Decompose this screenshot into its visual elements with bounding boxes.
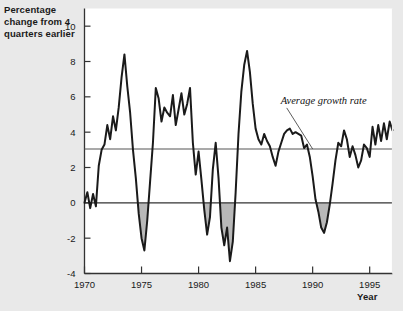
y-tick-label: -2: [67, 233, 75, 244]
x-tick-label: 1985: [245, 279, 266, 290]
x-tick-label: 1970: [74, 279, 95, 290]
y-tick-label: 6: [70, 91, 75, 102]
chart-figure: Percentage change from 4 quarters earlie…: [0, 0, 403, 311]
x-tick-label: 1995: [359, 279, 380, 290]
y-tick-label: -4: [67, 268, 75, 279]
y-tick-label: 2: [70, 162, 75, 173]
x-tick-label: 1990: [302, 279, 323, 290]
x-tick-label: 1980: [188, 279, 209, 290]
y-tick-label: 10: [65, 21, 76, 32]
line-chart-plot: -4-20246810197019751980198519901995Avera…: [0, 0, 403, 311]
y-tick-label: 4: [70, 127, 75, 138]
y-tick-label: 0: [70, 197, 75, 208]
x-tick-label: 1975: [131, 279, 152, 290]
y-tick-label: 8: [70, 56, 75, 67]
annotation-label: Average growth rate: [280, 95, 367, 106]
